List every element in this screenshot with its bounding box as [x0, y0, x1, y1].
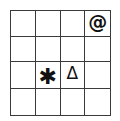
grid-cell-r1-c3: [85, 37, 110, 63]
grid-cell-r0-c3: @: [85, 11, 110, 37]
grid-cell-r1-c1: [36, 37, 61, 63]
at-sign-icon: @: [88, 13, 107, 32]
grid-cell-r1-c0: [11, 37, 36, 63]
grid-cell-r0-c1: [36, 11, 61, 37]
grid-cell-r3-c3: [85, 89, 110, 115]
grid-cell-r2-c3: [85, 62, 110, 89]
symbol-grid: @ ✱ Δ: [10, 10, 111, 116]
grid-cell-r3-c1: [36, 89, 61, 115]
grid-cell-r3-c0: [11, 89, 36, 115]
grid-cell-r2-c0: [11, 62, 36, 89]
grid-cell-r2-c2: Δ: [61, 62, 86, 89]
grid-cell-r0-c2: [61, 11, 86, 37]
grid-cell-r1-c2: [61, 37, 86, 63]
delta-triangle-icon: Δ: [67, 65, 79, 82]
grid-cell-r2-c1: ✱: [36, 62, 61, 89]
grid-cell-r3-c2: [61, 89, 86, 115]
grid-cell-r0-c0: [11, 11, 36, 37]
asterisk-icon: ✱: [38, 66, 56, 88]
